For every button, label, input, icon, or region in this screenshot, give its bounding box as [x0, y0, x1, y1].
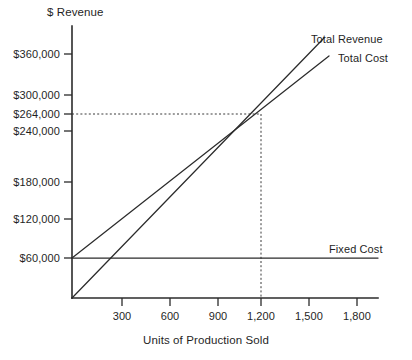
- fixed-cost-label: Fixed Cost: [329, 243, 383, 255]
- y-tick-label-360000: $360,000: [0, 48, 60, 60]
- y-axis-title: $ Revenue: [47, 6, 104, 18]
- total-cost-line: [72, 56, 329, 258]
- break-even-chart: $ Revenue $360,000 $300,000 $264,000 $24…: [0, 0, 412, 360]
- x-tick-label-300: 300: [100, 310, 144, 322]
- x-tick-label-600: 600: [148, 310, 192, 322]
- y-tick-label-120000: $120,000: [0, 213, 60, 225]
- x-tick-label-1500: 1,500: [287, 310, 331, 322]
- x-tick-label-1800: 1,800: [335, 310, 379, 322]
- x-axis-title: Units of Production Sold: [0, 334, 412, 346]
- y-tick-label-240000: $240,000: [0, 125, 60, 137]
- y-tick-label-264000: $264,000: [0, 108, 60, 120]
- x-tick-label-900: 900: [196, 310, 240, 322]
- x-tick-label-1200: 1,200: [239, 310, 283, 322]
- y-tick-label-180000: $180,000: [0, 176, 60, 188]
- total-revenue-line: [72, 38, 324, 298]
- total-cost-label: Total Cost: [338, 52, 388, 64]
- y-tick-label-60000: $60,000: [0, 252, 60, 264]
- x-axis-ticks: [122, 298, 357, 306]
- y-tick-label-300000: $300,000: [0, 89, 60, 101]
- y-axis-ticks: [64, 54, 72, 258]
- total-revenue-label: Total Revenue: [311, 33, 383, 45]
